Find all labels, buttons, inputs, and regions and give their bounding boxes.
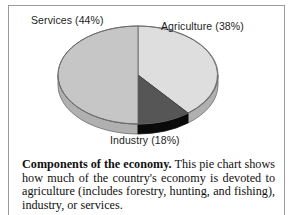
figure-caption: Components of the economy. This pie char… — [22, 158, 275, 212]
pie-label-industry: Industry (18%) — [110, 134, 180, 146]
pie-chart-graphic — [9, 6, 286, 154]
figure-frame: Services (44%) Agriculture (38%) Industr… — [8, 5, 285, 215]
figure-caption-title: Components of the economy. — [22, 157, 172, 171]
pie-chart: Services (44%) Agriculture (38%) Industr… — [9, 6, 286, 154]
pie-label-agriculture: Agriculture (38%) — [161, 20, 244, 32]
pie-label-services: Services (44%) — [31, 14, 104, 26]
